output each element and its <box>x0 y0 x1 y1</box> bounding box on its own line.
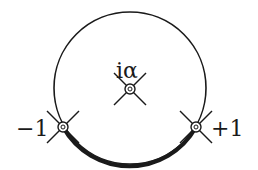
label-plus-one: +1 <box>211 116 243 141</box>
contour-diagram: −1 iα +1 <box>0 0 258 170</box>
label-minus-one: −1 <box>16 116 48 141</box>
highlighted-lower-arc <box>63 127 196 166</box>
marker-minus-one <box>47 111 79 143</box>
label-i-alpha: iα <box>116 58 138 83</box>
marker-plus-one <box>180 111 212 143</box>
